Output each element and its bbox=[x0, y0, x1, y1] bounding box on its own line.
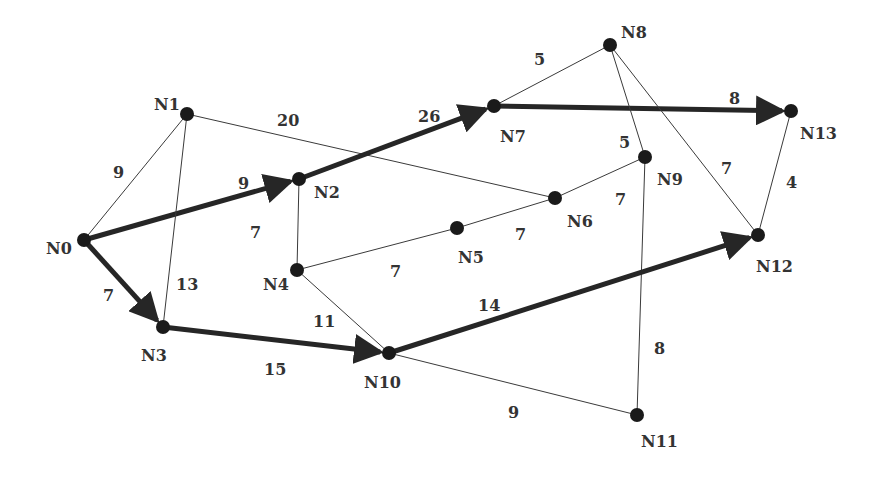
node-label-n3: N3 bbox=[141, 346, 167, 365]
node-n3 bbox=[156, 320, 170, 334]
node-label-n5: N5 bbox=[458, 248, 484, 267]
edge-weight-label: 11 bbox=[313, 312, 335, 331]
node-n13 bbox=[784, 104, 798, 118]
node-n2 bbox=[292, 172, 306, 186]
node-label-n10: N10 bbox=[364, 373, 401, 392]
node-n1 bbox=[180, 107, 194, 121]
node-label-n0: N0 bbox=[46, 239, 72, 258]
node-n8 bbox=[603, 38, 617, 52]
edge-weight-label: 8 bbox=[654, 339, 665, 358]
edge-weight-label: 7 bbox=[515, 225, 526, 244]
edge-weight-label: 8 bbox=[729, 89, 740, 108]
edge-n6-n9 bbox=[555, 157, 645, 198]
edge-n8-n12 bbox=[610, 45, 758, 235]
edge-weight-label: 13 bbox=[176, 275, 198, 294]
node-label-n12: N12 bbox=[756, 257, 793, 276]
node-n11 bbox=[630, 408, 644, 422]
edge-weight-label: 7 bbox=[250, 223, 261, 242]
node-label-n7: N7 bbox=[500, 127, 526, 146]
weights-layer: 99713207261571177585789144 bbox=[103, 50, 797, 422]
node-n5 bbox=[450, 221, 464, 235]
edge-weight-label: 20 bbox=[277, 111, 299, 130]
edge-weight-label: 7 bbox=[721, 159, 732, 178]
edges-layer bbox=[84, 45, 791, 415]
node-label-n13: N13 bbox=[800, 124, 837, 143]
edge-n2-n7-path-arrow bbox=[299, 109, 486, 179]
node-label-n1: N1 bbox=[154, 95, 180, 114]
node-n12 bbox=[751, 228, 765, 242]
edge-n4-n5 bbox=[297, 228, 457, 270]
node-label-n8: N8 bbox=[621, 23, 647, 42]
edge-n9-n11 bbox=[637, 157, 645, 415]
edge-n5-n6 bbox=[457, 198, 555, 228]
edge-n7-n8 bbox=[494, 45, 610, 106]
edge-n1-n3 bbox=[163, 114, 187, 327]
node-n7 bbox=[487, 99, 501, 113]
node-label-n6: N6 bbox=[567, 212, 593, 231]
edge-n0-n1 bbox=[84, 114, 187, 240]
node-n6 bbox=[548, 191, 562, 205]
nodes-layer bbox=[77, 38, 798, 422]
edge-weight-label: 7 bbox=[615, 190, 626, 209]
node-n10 bbox=[382, 346, 396, 360]
edge-weight-label: 26 bbox=[418, 107, 440, 126]
edge-n10-n12-path-arrow bbox=[389, 238, 749, 353]
node-label-n9: N9 bbox=[657, 170, 683, 189]
edge-weight-label: 7 bbox=[103, 286, 114, 305]
edge-weight-label: 15 bbox=[264, 360, 286, 379]
node-label-n11: N11 bbox=[641, 432, 678, 451]
edge-weight-label: 5 bbox=[534, 50, 545, 69]
node-n0 bbox=[77, 233, 91, 247]
node-labels-layer: N0N1N2N3N4N5N6N7N8N9N10N11N12N13 bbox=[46, 23, 837, 451]
edge-weight-label: 9 bbox=[113, 163, 124, 182]
node-label-n2: N2 bbox=[314, 183, 340, 202]
weighted-graph-diagram: 99713207261571177585789144 N0N1N2N3N4N5N… bbox=[0, 0, 882, 477]
edge-weight-label: 9 bbox=[238, 174, 249, 193]
edge-weight-label: 7 bbox=[390, 262, 401, 281]
edge-n4-n10 bbox=[297, 270, 389, 353]
edge-weight-label: 14 bbox=[478, 296, 500, 315]
edge-n2-n4 bbox=[297, 179, 299, 270]
edge-weight-label: 9 bbox=[508, 403, 519, 422]
node-n4 bbox=[290, 263, 304, 277]
edge-weight-label: 4 bbox=[786, 173, 797, 192]
edge-n0-n3-path-arrow bbox=[84, 240, 157, 320]
edge-n3-n10-path-arrow bbox=[163, 327, 380, 352]
node-label-n4: N4 bbox=[263, 275, 289, 294]
node-n9 bbox=[638, 150, 652, 164]
edge-weight-label: 5 bbox=[619, 133, 630, 152]
